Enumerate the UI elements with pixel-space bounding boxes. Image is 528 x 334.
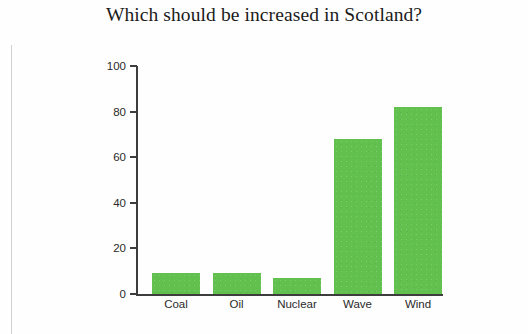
bar-slot: Oil	[213, 66, 261, 294]
x-tick-label-wind: Wind	[379, 298, 457, 310]
bar-slot: Coal	[152, 66, 200, 294]
y-tick-mark	[130, 156, 137, 158]
plot-area: 020406080100 CoalOilNuclearWaveWind	[137, 66, 443, 294]
bar-slot: Wave	[334, 66, 382, 294]
y-tick-label: 100	[107, 60, 126, 72]
chart-screenshot: Which should be increased in Scotland? 0…	[0, 0, 528, 334]
bar-wind	[394, 107, 442, 294]
scanned-page-edge-line	[11, 45, 12, 334]
x-axis-line	[136, 294, 443, 296]
y-tick-mark	[130, 111, 137, 113]
y-tick-label: 60	[113, 151, 126, 163]
y-tick-label: 20	[113, 242, 126, 254]
bar-coal	[152, 273, 200, 294]
bar-nuclear	[273, 278, 321, 294]
y-tick-label: 0	[120, 288, 126, 300]
bar-slot: Nuclear	[273, 66, 321, 294]
bar-oil	[213, 273, 261, 294]
bar-wave	[334, 139, 382, 294]
bar-slot: Wind	[394, 66, 442, 294]
y-tick-mark	[130, 65, 137, 67]
y-tick-label: 80	[113, 106, 126, 118]
y-tick-mark	[130, 247, 137, 249]
y-tick-mark	[130, 202, 137, 204]
y-tick-mark	[130, 293, 137, 295]
y-tick-label: 40	[113, 197, 126, 209]
chart-title: Which should be increased in Scotland?	[0, 4, 528, 26]
bar-series: CoalOilNuclearWaveWind	[137, 66, 443, 294]
